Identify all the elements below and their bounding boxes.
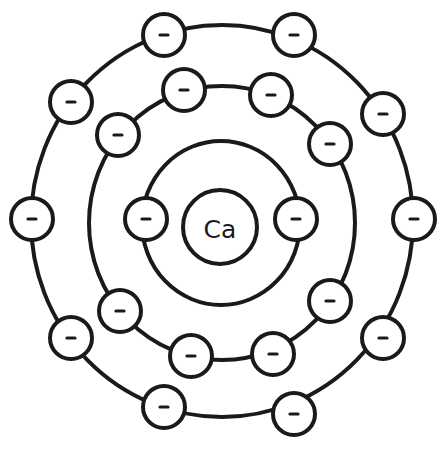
electron [50, 81, 92, 123]
electron [252, 333, 294, 375]
electron [163, 69, 205, 111]
electron [143, 386, 185, 428]
electron [273, 393, 315, 435]
electron [309, 123, 351, 165]
electron [250, 74, 292, 116]
electron [97, 114, 139, 156]
electron [393, 198, 435, 240]
electron [125, 198, 167, 240]
electron [50, 317, 92, 359]
bohr-model-diagram: Ca [0, 0, 446, 461]
electron [143, 14, 185, 56]
nucleus: Ca [183, 190, 257, 264]
element-symbol: Ca [204, 215, 237, 244]
electron [275, 198, 317, 240]
electron [11, 198, 53, 240]
electron [273, 14, 315, 56]
electron [362, 93, 404, 135]
electron [309, 280, 351, 322]
electron [170, 335, 212, 377]
electron [362, 317, 404, 359]
electron [99, 290, 141, 332]
